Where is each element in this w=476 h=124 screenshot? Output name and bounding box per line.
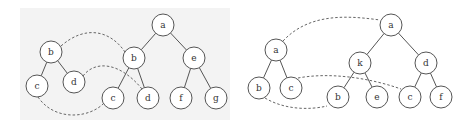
- node-label: c: [288, 83, 293, 93]
- node-label: c: [34, 81, 39, 91]
- left-target-node-f: f: [170, 87, 192, 109]
- right-target-node-f: f: [430, 86, 452, 108]
- right-target-edge-tk-tb: [344, 72, 354, 88]
- node-label: d: [423, 58, 429, 68]
- node-label: d: [71, 77, 77, 87]
- node-label: b: [131, 53, 137, 63]
- node-label: d: [145, 93, 151, 103]
- left-target-node-g: g: [205, 87, 227, 109]
- right-pattern-edge-pa-pb: [263, 60, 271, 78]
- node-label: a: [273, 45, 279, 55]
- node-label: c: [110, 93, 115, 103]
- left-target-node-c: c: [102, 87, 124, 109]
- right-target-edge-td-tf: [430, 73, 436, 87]
- right-target-edge-ta-tk: [367, 34, 384, 55]
- left-target-node-e: e: [183, 47, 205, 69]
- node-label: g: [213, 93, 219, 103]
- right-pattern-edge-pa-pc: [280, 60, 287, 78]
- left-target-node-b: b: [123, 47, 145, 69]
- node-label: b: [256, 83, 262, 93]
- right-pattern-node-c: c: [280, 77, 302, 99]
- left-target-node-d: d: [137, 87, 159, 109]
- node-label: b: [335, 92, 341, 102]
- node-label: c: [407, 92, 412, 102]
- right-mapping-pc-to-tc: [298, 76, 401, 89]
- right-mapping-pa-to-ta: [283, 17, 380, 41]
- right-pattern-node-a: a: [265, 39, 287, 61]
- right-target-node-a: a: [380, 14, 402, 36]
- right-target-node-e: e: [366, 86, 388, 108]
- right-target-node-c: c: [399, 86, 421, 108]
- node-label: e: [374, 92, 379, 102]
- left-target-node-a: a: [152, 14, 174, 36]
- right-mapping-pb-to-tb: [265, 98, 327, 108]
- node-label: k: [357, 58, 363, 68]
- tree-matching-figure: bcdabecdfgabcakdbecf: [0, 0, 476, 124]
- right-target-edge-td-tc: [415, 73, 422, 87]
- node-label: b: [48, 47, 54, 57]
- left-pattern-node-d: d: [63, 71, 85, 93]
- node-label: a: [388, 20, 394, 30]
- node-label: e: [191, 53, 196, 63]
- right-pattern-node-b: b: [248, 77, 270, 99]
- left-pattern-node-b: b: [40, 41, 62, 63]
- left-pattern-node-c: c: [26, 75, 48, 97]
- node-label: a: [160, 20, 166, 30]
- right-target-node-d: d: [415, 52, 437, 74]
- right-target-node-b: b: [327, 86, 349, 108]
- right-target-edge-ta-td: [398, 33, 418, 55]
- right-target-node-k: k: [349, 52, 371, 74]
